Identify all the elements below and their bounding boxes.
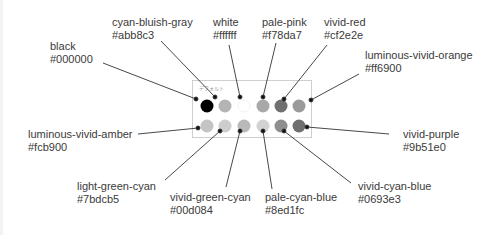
callout-pale-cyan-blue: pale-cyan-blue #8ed1fc	[265, 191, 337, 217]
color-name: vivid-purple	[403, 128, 459, 141]
color-hex: #ffffff	[213, 29, 239, 42]
color-hex: #00d084	[170, 204, 251, 217]
callout-luminous-vivid-orange: luminous-vivid-orange #ff6900	[365, 49, 473, 75]
color-name: luminous-vivid-orange	[365, 49, 473, 62]
callout-luminous-vivid-amber: luminous-vivid-amber #fcb900	[28, 128, 133, 154]
color-hex: #cf2e2e	[324, 29, 366, 42]
color-name: luminous-vivid-amber	[28, 128, 133, 141]
color-hex: #000000	[50, 53, 93, 66]
color-name: vivid-red	[324, 16, 366, 29]
callout-black: black #000000	[50, 40, 93, 66]
callout-pale-pink: pale-pink #f78da7	[262, 16, 307, 42]
color-name: vivid-green-cyan	[170, 191, 251, 204]
color-hex: #8ed1fc	[265, 204, 337, 217]
color-hex: #9b51e0	[403, 141, 459, 154]
callout-vivid-red: vivid-red #cf2e2e	[324, 16, 366, 42]
color-name: white	[213, 16, 239, 29]
callout-cyan-bluish-gray: cyan-bluish-gray #abb8c3	[112, 16, 193, 42]
color-hex: #fcb900	[28, 141, 133, 154]
color-name: cyan-bluish-gray	[112, 16, 193, 29]
color-name: vivid-cyan-blue	[358, 180, 431, 193]
color-hex: #7bdcb5	[77, 193, 156, 206]
callout-vivid-purple: vivid-purple #9b51e0	[403, 128, 459, 154]
color-hex: #0693e3	[358, 193, 431, 206]
callout-white: white #ffffff	[213, 16, 239, 42]
color-hex: #ff6900	[365, 62, 473, 75]
color-name: pale-pink	[262, 16, 307, 29]
color-hex: #f78da7	[262, 29, 307, 42]
color-name: light-green-cyan	[77, 180, 156, 193]
callout-vivid-green-cyan: vivid-green-cyan #00d084	[170, 191, 251, 217]
color-name: pale-cyan-blue	[265, 191, 337, 204]
color-hex: #abb8c3	[112, 29, 193, 42]
callout-vivid-cyan-blue: vivid-cyan-blue #0693e3	[358, 180, 431, 206]
color-name: black	[50, 40, 93, 53]
callout-light-green-cyan: light-green-cyan #7bdcb5	[77, 180, 156, 206]
